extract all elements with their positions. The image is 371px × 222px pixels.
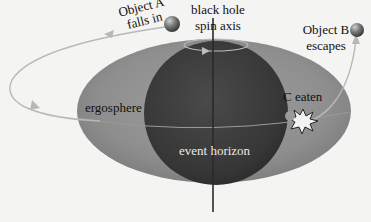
c-eaten-label: C eaten: [283, 90, 322, 104]
ergosphere-label: ergosphere: [85, 101, 142, 115]
spin-axis-label: black hole spin axis: [188, 3, 248, 33]
spin-axis-label-line1: black hole: [188, 3, 248, 17]
c-object-sphere: [285, 111, 295, 121]
orbit-arrow-left-icon: [30, 100, 40, 110]
object-b-label-line1: Object B: [298, 23, 354, 37]
event-horizon-label: event horizon: [179, 144, 250, 158]
event-horizon-sphere: [144, 41, 288, 185]
object-b-label: Object B escapes: [298, 23, 354, 53]
object-b-label-line2: escapes: [298, 39, 354, 53]
black-hole-diagram: Object A falls in black hole spin axis O…: [0, 0, 371, 222]
spin-axis-label-line2: spin axis: [188, 19, 248, 33]
